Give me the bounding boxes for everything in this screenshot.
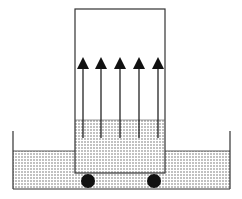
wheel-right-icon: [147, 174, 161, 188]
buoyancy-diagram: [0, 0, 242, 199]
wheel-left-icon: [81, 174, 95, 188]
